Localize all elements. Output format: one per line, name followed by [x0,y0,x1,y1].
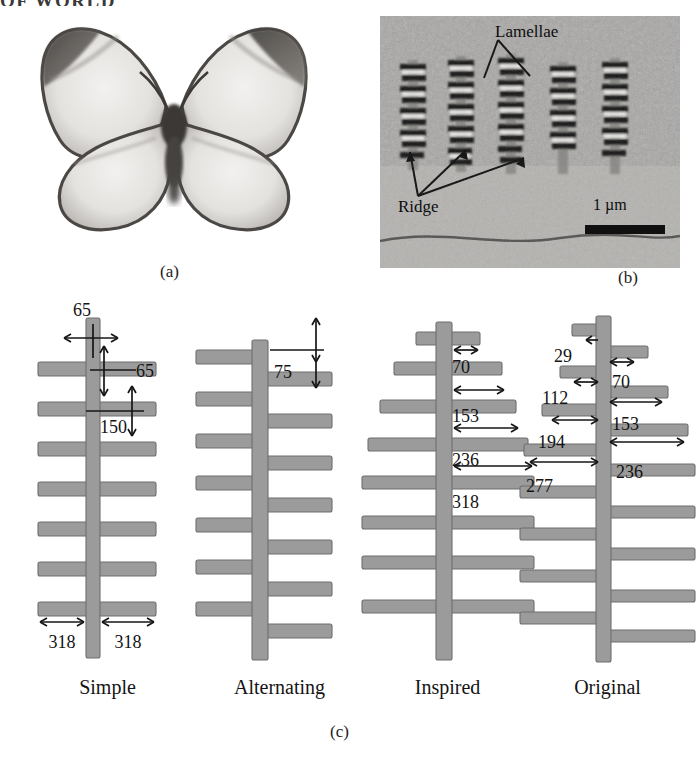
dim-simple-0: 65 [73,300,91,320]
dim-alternating-0: 75 [274,362,292,382]
dim-simple-3: 318 [49,632,76,652]
dim-inspired-3: 318 [452,492,479,512]
dim-original-5: 236 [616,462,643,482]
diagram-label-inspired: Inspired [360,676,535,699]
diagram-original: 29 70 112 [520,300,695,670]
dim-inspired-1: 153 [452,406,479,426]
dim-simple-1: 65 [136,361,154,381]
panel-a-butterfly-photo [14,14,334,254]
sem-label-lamellae: Lamellae [495,22,558,42]
page-header-text: OF WORLD [0,0,260,6]
sem-scale-label: 1 µm [593,196,627,214]
diagram-alternating: 75 [192,300,367,670]
dim-original-1: 70 [612,372,630,392]
dim-simple-4: 318 [115,632,142,652]
caption-b: (b) [618,268,638,288]
dim-original-3: 153 [612,414,639,434]
dim-original-6: 277 [526,476,553,496]
diagram-simple: 65 65 150 [20,300,195,670]
dim-inspired-0: 70 [452,357,470,377]
diagram-inspired: 70 153 236 [360,300,535,670]
diagram-label-simple: Simple [20,676,195,699]
dim-original-4: 194 [538,432,565,452]
caption-c: (c) [330,722,349,742]
dim-simple-2: 150 [100,417,127,437]
diagram-label-original: Original [520,676,695,699]
dim-original-0: 29 [554,346,572,366]
page-header-cropped: OF WORLD [0,0,260,6]
dim-original-2: 112 [542,388,568,408]
sem-label-ridge: Ridge [398,197,439,217]
sem-scale-bar [585,225,665,234]
diagram-label-alternating: Alternating [192,676,367,699]
caption-a: (a) [160,262,179,282]
panel-c-schematics: 65 65 150 [0,300,699,720]
figure-root: OF WORLD [0,0,699,773]
